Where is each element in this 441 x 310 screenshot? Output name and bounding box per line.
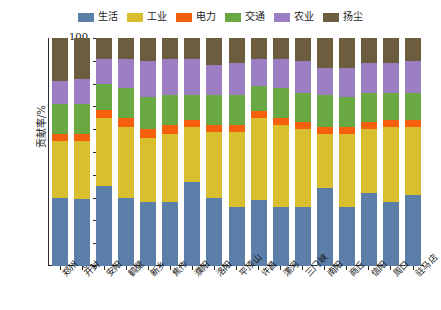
bar-segment-12-4 — [317, 68, 333, 95]
bar-segment-1-4 — [74, 79, 90, 104]
bar-column-6[interactable] — [184, 38, 200, 266]
bar-segment-8-5 — [229, 38, 245, 63]
bar-segment-2-1 — [96, 118, 112, 186]
legend-label-1: 工业 — [147, 12, 167, 22]
bar-column-15[interactable] — [383, 38, 399, 266]
bar-segment-11-4 — [295, 61, 311, 93]
bar-column-8[interactable] — [229, 38, 245, 266]
bar-segment-5-1 — [162, 134, 178, 202]
bar-segment-0-1 — [52, 141, 68, 198]
bar-segment-5-3 — [162, 95, 178, 125]
bar-segment-11-3 — [295, 93, 311, 123]
bar-segment-6-2 — [184, 120, 200, 127]
bar-segment-10-2 — [273, 118, 289, 125]
bar-segment-4-3 — [140, 97, 156, 129]
bar-segment-8-3 — [229, 95, 245, 125]
bar-segment-15-4 — [383, 63, 399, 93]
legend-item-2[interactable]: 电力 — [176, 12, 216, 22]
bar-segment-2-3 — [96, 84, 112, 110]
x-label-wrap-11: 三门峡 — [295, 268, 311, 310]
bar-column-5[interactable] — [162, 38, 178, 266]
bar-segment-3-4 — [118, 59, 134, 89]
x-label-wrap-5: 焦作 — [162, 268, 178, 310]
bar-column-3[interactable] — [118, 38, 134, 266]
bar-segment-13-1 — [339, 134, 355, 207]
bar-column-16[interactable] — [405, 38, 421, 266]
bar-segment-16-2 — [405, 120, 421, 127]
bar-segment-7-0 — [206, 198, 222, 266]
legend-item-1[interactable]: 工业 — [127, 12, 167, 22]
bar-segment-8-2 — [229, 125, 245, 132]
bar-segment-12-2 — [317, 127, 333, 134]
bar-segment-16-1 — [405, 127, 421, 195]
bar-segment-10-4 — [273, 59, 289, 89]
stacked-bar-chart: 生活工业电力交通农业扬尘 贡献率/% 010203040506070809010… — [0, 0, 441, 310]
chart-legend: 生活工业电力交通农业扬尘 — [0, 12, 441, 22]
bar-column-2[interactable] — [96, 38, 112, 266]
bar-segment-0-3 — [52, 104, 68, 134]
x-label-wrap-0: 郑州 — [52, 268, 68, 310]
bar-segment-13-5 — [339, 38, 355, 68]
bar-segment-15-5 — [383, 38, 399, 63]
bar-column-14[interactable] — [361, 38, 377, 266]
bar-segment-13-2 — [339, 127, 355, 134]
bar-segment-16-5 — [405, 38, 421, 61]
bar-segment-0-4 — [52, 81, 68, 104]
bar-segment-3-0 — [118, 198, 134, 266]
bar-segment-3-3 — [118, 88, 134, 118]
legend-label-3: 交通 — [245, 12, 265, 22]
bar-segment-7-5 — [206, 38, 222, 65]
bar-column-13[interactable] — [339, 38, 355, 266]
legend-swatch-dianli — [176, 13, 192, 22]
bar-segment-9-3 — [251, 86, 267, 111]
legend-item-5[interactable]: 扬尘 — [323, 12, 363, 22]
x-label-wrap-8: 平顶山 — [229, 268, 245, 310]
bar-segment-0-0 — [52, 198, 68, 266]
legend-swatch-nongye — [274, 13, 290, 22]
x-label-wrap-2: 安阳 — [96, 268, 112, 310]
bar-segment-16-3 — [405, 93, 421, 120]
bar-segment-2-5 — [96, 38, 112, 59]
bar-segment-12-1 — [317, 134, 333, 189]
x-axis-labels: 郑州开封安阳鹤壁新乡焦作濮阳洛阳平顶山许昌漯河三门峡南阳商丘信阳周口驻马店 — [49, 268, 424, 310]
bar-segment-14-1 — [361, 129, 377, 193]
legend-item-3[interactable]: 交通 — [225, 12, 265, 22]
bar-column-7[interactable] — [206, 38, 222, 266]
legend-item-0[interactable]: 生活 — [78, 12, 118, 22]
x-label-wrap-13: 商丘 — [339, 268, 355, 310]
bar-segment-10-3 — [273, 88, 289, 118]
bar-segment-6-4 — [184, 59, 200, 95]
bar-segment-1-0 — [74, 199, 90, 266]
bar-segment-12-3 — [317, 95, 333, 127]
bar-column-1[interactable] — [74, 38, 90, 266]
legend-item-4[interactable]: 农业 — [274, 12, 314, 22]
bar-segment-9-5 — [251, 38, 267, 59]
bar-segment-8-0 — [229, 207, 245, 266]
bar-segment-15-0 — [383, 202, 399, 266]
bar-segment-10-5 — [273, 38, 289, 59]
legend-swatch-gongye — [127, 13, 143, 22]
bar-segment-0-5 — [52, 38, 68, 81]
bar-column-12[interactable] — [317, 38, 333, 266]
bar-column-10[interactable] — [273, 38, 289, 266]
x-label-wrap-6: 濮阳 — [184, 268, 200, 310]
bar-segment-10-1 — [273, 125, 289, 207]
x-label-wrap-16: 驻马店 — [405, 268, 421, 310]
bar-column-11[interactable] — [295, 38, 311, 266]
bar-segment-1-3 — [74, 104, 90, 134]
bar-column-4[interactable] — [140, 38, 156, 266]
bar-segment-6-5 — [184, 38, 200, 59]
bar-segment-13-0 — [339, 207, 355, 266]
bar-segment-13-3 — [339, 97, 355, 127]
bar-segment-15-3 — [383, 93, 399, 120]
bar-segment-6-1 — [184, 127, 200, 182]
legend-label-2: 电力 — [196, 12, 216, 22]
bar-segment-5-0 — [162, 202, 178, 266]
bar-segment-3-2 — [118, 118, 134, 127]
bar-column-9[interactable] — [251, 38, 267, 266]
bar-segment-16-0 — [405, 195, 421, 266]
bar-column-0[interactable] — [52, 38, 68, 266]
bar-segment-16-4 — [405, 61, 421, 93]
bar-segment-1-1 — [74, 141, 90, 199]
bar-segment-15-1 — [383, 127, 399, 202]
